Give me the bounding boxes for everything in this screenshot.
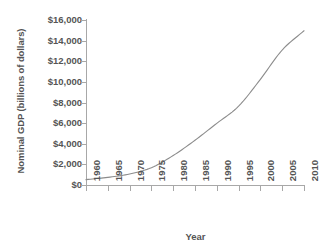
x-tick-mark bbox=[130, 186, 131, 191]
y-tick-mark bbox=[81, 103, 86, 104]
x-tick-mark bbox=[173, 186, 174, 191]
y-tick-mark bbox=[81, 61, 86, 62]
gdp-line-chart: Nominal GDP (billions of dollars) $0$2,0… bbox=[0, 0, 324, 250]
x-tick-mark bbox=[304, 186, 305, 191]
y-tick-mark bbox=[81, 123, 86, 124]
x-tick-label: 1985 bbox=[200, 160, 211, 194]
y-tick-mark bbox=[81, 164, 86, 165]
x-tick-mark bbox=[195, 186, 196, 191]
x-tick-label: 2000 bbox=[265, 160, 276, 194]
x-tick-label: 1970 bbox=[135, 160, 146, 194]
x-tick-mark bbox=[239, 186, 240, 191]
x-tick-mark bbox=[151, 186, 152, 191]
x-tick-label: 1980 bbox=[178, 160, 189, 194]
x-axis-title: Year bbox=[86, 231, 305, 242]
x-tick-label: 2010 bbox=[309, 160, 320, 194]
x-tick-label: 1960 bbox=[91, 160, 102, 194]
y-tick-mark bbox=[81, 144, 86, 145]
x-tick-label: 2005 bbox=[287, 160, 298, 194]
x-tick-label: 1990 bbox=[222, 160, 233, 194]
y-tick-mark bbox=[81, 41, 86, 42]
x-tick-mark bbox=[86, 186, 87, 191]
x-tick-mark bbox=[108, 186, 109, 191]
x-tick-label: 1975 bbox=[156, 160, 167, 194]
y-tick-mark bbox=[81, 20, 86, 21]
y-tick-mark bbox=[81, 82, 86, 83]
x-tick-mark bbox=[282, 186, 283, 191]
x-tick-mark bbox=[260, 186, 261, 191]
gdp-series-line bbox=[0, 0, 324, 250]
x-tick-label: 1995 bbox=[244, 160, 255, 194]
x-tick-mark bbox=[217, 186, 218, 191]
x-tick-label: 1965 bbox=[113, 160, 124, 194]
